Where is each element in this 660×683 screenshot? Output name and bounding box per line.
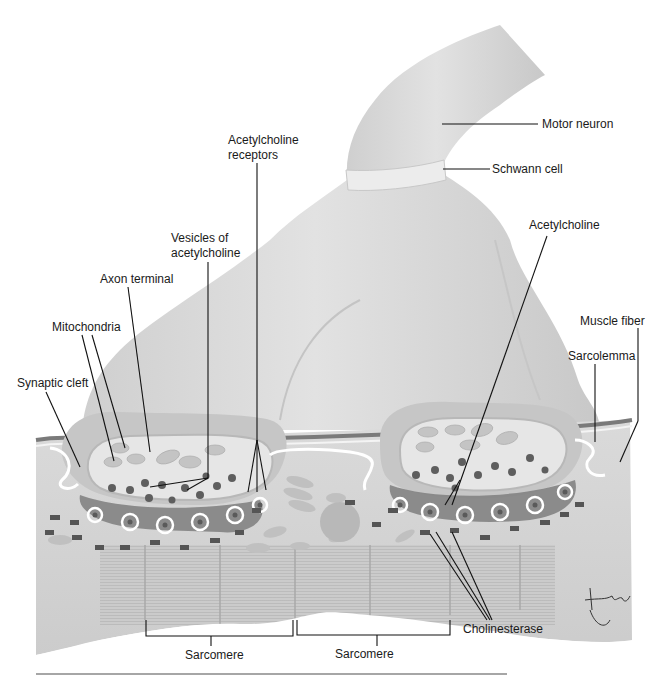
label-muscle-fiber: Muscle fiber xyxy=(580,314,645,329)
label-ach-receptors: Acetylcholine receptors xyxy=(228,133,299,163)
label-cholinesterase: Cholinesterase xyxy=(463,622,543,637)
label-motor-neuron: Motor neuron xyxy=(542,117,613,132)
motor-neuron xyxy=(82,25,600,430)
neuromuscular-junction-diagram: Motor neuron Schwann cell Acetylcholine … xyxy=(0,0,660,683)
label-sarcomere-left: Sarcomere xyxy=(185,648,244,663)
label-vesicles: Vesicles of acetylcholine xyxy=(171,231,240,261)
label-mitochondria: Mitochondria xyxy=(52,320,121,335)
label-vesicles-line1: Vesicles of xyxy=(171,231,240,246)
label-ach-receptors-line2: receptors xyxy=(228,148,299,163)
label-schwann-cell: Schwann cell xyxy=(492,162,563,177)
label-axon-terminal: Axon terminal xyxy=(100,272,173,287)
label-sarcomere-right: Sarcomere xyxy=(335,647,394,662)
diagram-artwork xyxy=(0,0,660,683)
label-ach-receptors-line1: Acetylcholine xyxy=(228,133,299,148)
axon-terminal-right xyxy=(380,402,582,523)
label-sarcolemma: Sarcolemma xyxy=(568,349,635,364)
nucleus xyxy=(320,502,360,542)
label-vesicles-line2: acetylcholine xyxy=(171,246,240,261)
axon-terminal-left xyxy=(62,412,287,533)
label-synaptic-cleft: Synaptic cleft xyxy=(17,376,88,391)
label-acetylcholine: Acetylcholine xyxy=(529,218,600,233)
